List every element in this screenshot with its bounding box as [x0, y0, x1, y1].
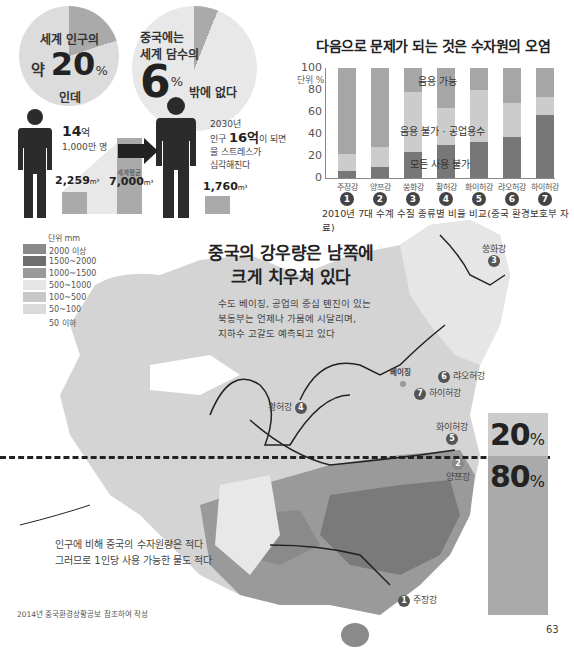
population-count: 14억 1,000만 명 — [62, 121, 107, 153]
river-name-2: 양쯔강 — [446, 470, 470, 483]
future-line4: 심각해진다 — [210, 159, 286, 172]
legend-swatch-3 — [23, 268, 46, 278]
unit: m³ — [90, 178, 100, 186]
future-line3: 물 스트레스가 — [210, 146, 286, 159]
y-tick-0: 0 — [300, 171, 322, 184]
legend-swatch-1 — [23, 244, 46, 254]
river-name-1: 주장강 — [413, 595, 437, 605]
river-label-1: 1 주장강 — [398, 593, 437, 607]
bar-7-drinkable — [536, 68, 554, 97]
river-number-7: 7 — [414, 388, 426, 400]
value-china-current: 2,259m³ — [55, 174, 99, 187]
bar-5-drinkable — [470, 68, 488, 90]
y-tick-20: 20 — [300, 149, 322, 162]
bar-1-industrial — [338, 154, 356, 172]
chart-title: 다음으로 문제가 되는 것은 수자원의 오염 — [316, 35, 550, 55]
bar-6-industrial — [503, 103, 521, 137]
future-pre: 인구 — [210, 134, 226, 144]
series-label-unusable: 모든 사용 불가 — [410, 156, 470, 171]
bar-2-drinkable — [371, 68, 389, 147]
river-name-3: 쑹화강 — [482, 242, 506, 255]
population-share-text: 세계 인구의 약 20% 인데 — [22, 30, 117, 105]
ratio-south-value: 80 — [490, 459, 530, 494]
bar-1 — [338, 68, 356, 178]
river-label-4: 황허강 4 — [268, 400, 307, 414]
legend-swatch-6 — [23, 304, 46, 314]
map-title-line2: 크게 치우쳐 있다 — [208, 265, 374, 289]
population-unit: 억 — [81, 127, 90, 138]
source-note: 2014년 중국환경상황공보 참조하여 작성 — [17, 608, 148, 619]
x-label-7: 하이허강 — [525, 181, 565, 192]
page-number: 63 — [546, 624, 559, 635]
river-number-1: 1 — [398, 595, 410, 607]
x-number-4: 4 — [439, 192, 453, 206]
x-number-7: 7 — [538, 192, 552, 206]
bar-5-unusable — [470, 142, 488, 178]
capital-label: 베이징 — [390, 366, 411, 377]
legend-unit: 단위 mm — [48, 232, 80, 243]
value-world-average: 7,000m³ — [109, 175, 153, 188]
bar-3-industrial — [404, 92, 422, 151]
bar-china-current — [62, 192, 87, 214]
legend-swatch-5 — [23, 292, 46, 302]
ratio-unit: % — [530, 472, 544, 491]
x-number-3: 3 — [406, 192, 420, 206]
legend-label-7: 50 이하 — [49, 317, 76, 328]
bar-2-unusable — [371, 167, 389, 178]
river-number-2: 2 — [452, 458, 464, 470]
y-tick-80: 80 — [300, 83, 322, 96]
ratio-north-value: 20 — [490, 417, 530, 452]
pie1-value: 20 — [51, 45, 96, 83]
population-value: 14 — [62, 123, 81, 139]
map-desc-line1: 수도 베이징, 공업의 중심 톈진이 있는 — [218, 296, 371, 311]
rainfall-ratio-bar: 20% 80% — [488, 413, 548, 615]
bar-6 — [503, 68, 521, 178]
ratio-south-text: 80% — [490, 459, 544, 494]
bottom-note-line2: 그러므로 1인당 사용 가능한 물도 적다 — [55, 553, 212, 569]
value-world-average-number: 7,000 — [109, 175, 144, 188]
bar-1-drinkable — [338, 68, 356, 154]
river-name-6: 랴오허강 — [453, 371, 485, 381]
pie1-line3: 인데 — [22, 88, 117, 105]
bar-7-unusable — [536, 115, 554, 178]
river-number-3: 3 — [488, 255, 500, 267]
series-label-drinkable: 음용 가능 — [418, 73, 457, 88]
river-number-4: 4 — [295, 402, 307, 414]
legend-label-1: 2000 이상 — [49, 245, 86, 256]
pie1-unit: % — [95, 63, 107, 78]
bar-2 — [371, 68, 389, 178]
pie2-unit: % — [171, 74, 183, 89]
y-tick-40: 40 — [300, 127, 322, 140]
unit: m³ — [144, 179, 154, 187]
river-label-2: 2 양쯔강 — [446, 458, 470, 483]
river-name-7: 하이허강 — [429, 388, 461, 398]
ratio-north-text: 20% — [490, 417, 544, 452]
pie2-line1: 중국에는 — [140, 28, 237, 45]
river-number-5: 5 — [446, 433, 458, 445]
x-axis — [325, 178, 555, 179]
map-desc-line3: 지하수 고갈도 예측되고 있다 — [218, 326, 371, 341]
legend-label-4: 500~1000 — [49, 281, 91, 290]
y-tick-100: 100 — [300, 61, 322, 74]
river-label-6: 6 랴오허강 — [438, 369, 485, 383]
bar-china-2030 — [205, 196, 230, 214]
map-title: 중국의 강우량은 남쪽에 크게 치우쳐 있다 — [208, 241, 374, 289]
x-number-2: 2 — [373, 192, 387, 206]
value-china-2030: 1,760m³ — [203, 180, 247, 193]
bar-6-unusable — [503, 137, 521, 178]
bottom-note-line1: 인구에 비해 중국의 수자원량은 적다 — [55, 537, 212, 553]
river-name-5: 화이허강 — [436, 420, 468, 433]
river-number-6: 6 — [438, 371, 450, 383]
river-label-3: 쑹화강 3 — [482, 242, 506, 267]
bar-7 — [536, 68, 554, 178]
arrow-icon — [118, 138, 158, 164]
value-china-current-number: 2,259 — [55, 174, 90, 187]
bar-7-industrial — [536, 97, 554, 116]
person-icon-future — [155, 96, 197, 218]
population-sub: 1,000만 명 — [62, 140, 107, 153]
x-number-6: 6 — [505, 192, 519, 206]
pie1-prefix: 약 — [31, 61, 45, 79]
legend-label-3: 1000~1500 — [49, 269, 96, 278]
value-china-2030-number: 1,760 — [203, 180, 238, 193]
bar-6-drinkable — [503, 68, 521, 103]
